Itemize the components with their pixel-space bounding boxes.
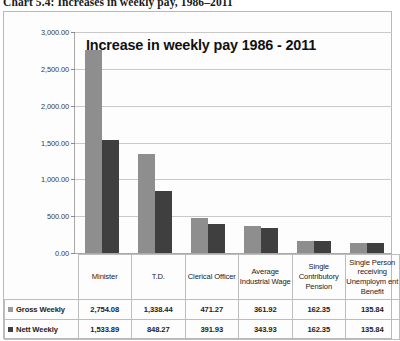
bar-gross[interactable] <box>138 154 155 253</box>
category-label-cell: Minister <box>78 255 132 300</box>
y-axis-label: 2,000.00 <box>41 101 69 110</box>
bar-group <box>234 33 287 253</box>
table-corner-cell <box>5 255 79 300</box>
bar-group <box>340 33 393 253</box>
bar-nett[interactable] <box>367 243 384 253</box>
legend-item-nett[interactable]: Nett Weekly <box>5 320 79 340</box>
legend-swatch-gross-icon <box>8 307 13 312</box>
y-axis-label: 3,000.00 <box>41 28 69 37</box>
y-axis-label: 1,000.00 <box>41 175 69 184</box>
bar-nett[interactable] <box>102 140 119 253</box>
category-label-cell: Clerical Officer <box>185 255 239 300</box>
figure-caption: Chart 5.4: Increases in weekly pay, 1986… <box>3 0 303 10</box>
value-cell-nett: 848.27 <box>132 320 186 340</box>
bar-nett[interactable] <box>261 228 278 253</box>
legend-swatch-nett-icon <box>8 327 13 332</box>
value-cell-gross: 471.27 <box>185 300 239 320</box>
value-cell-nett: 135.84 <box>346 320 400 340</box>
category-label-cell: Single Person receiving Unemploym ent Be… <box>346 255 400 300</box>
category-header-row: MinisterT.D.Clerical OfficerAverage Indu… <box>5 255 400 300</box>
value-cell-nett: 343.93 <box>239 320 293 340</box>
bar-group <box>128 33 181 253</box>
plot-area: 3,000.002,500.002,000.001,500.001,000.00… <box>74 33 392 254</box>
category-label-cell: T.D. <box>132 255 186 300</box>
value-cell-gross: 135.84 <box>346 300 400 320</box>
bar-nett[interactable] <box>314 241 331 253</box>
bar-gross[interactable] <box>191 218 208 253</box>
chart-object[interactable]: Increase in weekly pay 1986 - 2011 3,000… <box>3 11 392 339</box>
chart-title: Increase in weekly pay 1986 - 2011 <box>86 37 316 53</box>
value-cell-nett: 391.93 <box>185 320 239 340</box>
value-cell-nett: 1,533.89 <box>78 320 132 340</box>
value-cell-nett: 162.35 <box>292 320 346 340</box>
legend-label-nett: Nett Weekly <box>16 325 58 334</box>
category-label-cell: Single Contributory Pension <box>292 255 346 300</box>
legend-item-gross[interactable]: Gross Weekly <box>5 300 79 320</box>
legend-label-gross: Gross Weekly <box>16 305 65 314</box>
table-row-gross: Gross Weekly 2,754.081,338.44471.27361.9… <box>5 300 400 320</box>
bar-nett[interactable] <box>208 224 225 253</box>
y-axis-label: 1,500.00 <box>41 138 69 147</box>
bar-group <box>181 33 234 253</box>
bar-gross[interactable] <box>85 50 102 253</box>
bar-nett[interactable] <box>155 191 172 253</box>
bar-gross[interactable] <box>350 243 367 253</box>
y-axis-label: 500.00 <box>47 212 69 221</box>
bar-group <box>75 33 128 253</box>
bar-group <box>287 33 340 253</box>
chart-data-table: MinisterT.D.Clerical OfficerAverage Indu… <box>4 254 392 339</box>
bar-gross[interactable] <box>244 226 261 253</box>
value-cell-gross: 361.92 <box>239 300 293 320</box>
value-cell-gross: 162.35 <box>292 300 346 320</box>
table-row-nett: Nett Weekly 1,533.89848.27391.93343.9316… <box>5 320 400 340</box>
value-cell-gross: 1,338.44 <box>132 300 186 320</box>
category-label-cell: Average Industrial Wage <box>239 255 293 300</box>
value-cell-gross: 2,754.08 <box>78 300 132 320</box>
bar-gross[interactable] <box>297 241 314 253</box>
y-axis-label: 2,500.00 <box>41 64 69 73</box>
